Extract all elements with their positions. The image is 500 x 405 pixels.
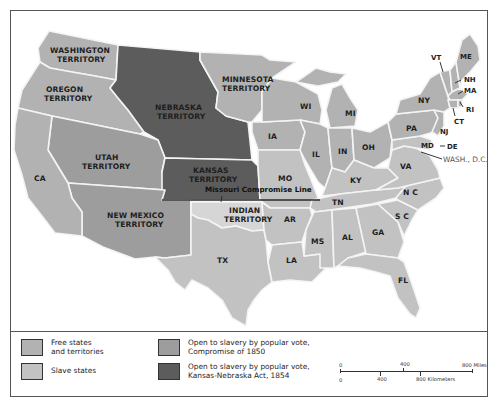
label-la: LA <box>286 256 297 265</box>
scale-tick <box>472 369 473 373</box>
label-nj: NJ <box>440 128 448 136</box>
legend-label: Free statesand territories <box>51 339 104 356</box>
label-tn: TN <box>332 198 344 207</box>
label-mi: MI <box>345 109 356 118</box>
scale-tick <box>403 368 404 372</box>
legend-item-compromise-1850: Open to slavery by popular vote,Compromi… <box>158 339 310 356</box>
scale-tick <box>340 369 341 373</box>
label-tx: TX <box>217 256 228 265</box>
label-ar: AR <box>284 215 296 224</box>
label-sc: S C <box>395 212 409 221</box>
label-al: AL <box>342 233 353 242</box>
label-ky: KY <box>350 176 362 185</box>
legend: Free statesand territories Slave states … <box>10 332 488 397</box>
us-1854-map: WASHINGTONTERRITORY OREGONTERRITORY MINN… <box>0 0 500 335</box>
label-missouri-compromise-line: Missouri Compromise Line <box>205 185 312 194</box>
scale-bar: 0 400 800 Miles 0 400 800 Kilometers <box>334 360 484 390</box>
label-ms: MS <box>311 237 324 246</box>
legend-item-free: Free statesand territories <box>21 339 104 356</box>
region-connecticut <box>448 100 458 108</box>
label-new-mexico-territory: NEW MEXICOTERRITORY <box>107 211 164 229</box>
legend-item-kansas-nebraska: Open to slavery by popular vote,Kansas-N… <box>158 363 310 380</box>
label-ny: NY <box>418 96 430 105</box>
label-ia: IA <box>268 132 277 141</box>
label-nebraska-territory: NEBRASKATERRITORY <box>155 103 206 121</box>
label-me: ME <box>460 53 472 61</box>
legend-label: Slave states <box>51 367 96 376</box>
label-minnesota-territory: MINNESOTATERRITORY <box>222 75 274 93</box>
label-md: MD <box>421 142 434 150</box>
scale-km-start: 0 <box>339 377 342 383</box>
label-de: DE <box>447 143 458 151</box>
legend-item-slave: Slave states <box>21 363 96 380</box>
swatch-slave <box>21 363 43 380</box>
label-il: IL <box>312 150 320 159</box>
label-va: VA <box>400 162 411 171</box>
label-washington-territory: WASHINGTONTERRITORY <box>50 46 110 64</box>
label-pa: PA <box>406 124 417 133</box>
label-oh: OH <box>362 143 375 152</box>
label-fl: FL <box>398 276 408 285</box>
label-ga: GA <box>372 228 384 237</box>
label-ri: RI <box>466 106 474 114</box>
swatch-free <box>21 339 43 356</box>
label-wi: WI <box>300 102 311 111</box>
legend-label: Open to slavery by popular vote,Kansas-N… <box>188 363 310 380</box>
label-mo: MO <box>278 174 293 183</box>
label-washington-dc: WASH., D.C. <box>443 155 488 164</box>
legend-label: Open to slavery by popular vote,Compromi… <box>188 339 310 356</box>
scale-km-mid: 400 <box>377 376 387 382</box>
region-florida <box>338 254 420 318</box>
label-nh: NH <box>464 76 476 84</box>
swatch-kansas-nebraska <box>158 363 180 380</box>
label-vt: VT <box>431 54 441 62</box>
region-michigan-upper <box>296 68 346 86</box>
label-ca: CA <box>34 174 46 183</box>
scale-km-end: 800 Kilometers <box>416 376 455 382</box>
scale-miles-start: 0 <box>339 362 342 368</box>
scale-miles-mid: 400 <box>400 361 410 367</box>
label-nc: N C <box>403 188 418 197</box>
label-ct: CT <box>454 118 464 126</box>
label-ma: MA <box>464 87 477 95</box>
swatch-compromise-1850 <box>158 339 180 356</box>
scale-miles-end: 800 Miles <box>462 362 487 368</box>
label-in: IN <box>338 147 347 156</box>
scale-line <box>340 371 472 372</box>
region-michigan <box>326 84 358 128</box>
region-iowa <box>252 120 305 150</box>
